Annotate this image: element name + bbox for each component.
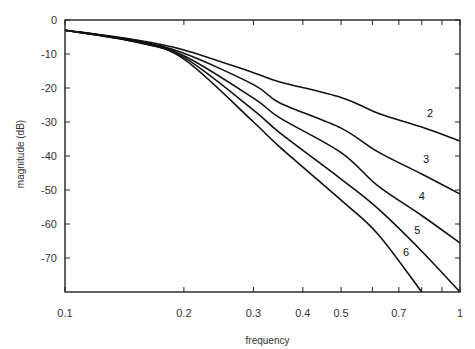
curve-label: 5 <box>414 224 420 236</box>
y-tick-label: -30 <box>41 116 57 128</box>
y-tick-label: -10 <box>41 48 57 60</box>
x-tick-label: 1 <box>457 307 463 319</box>
y-tick-label: -50 <box>41 184 57 196</box>
curve-label: 3 <box>423 153 429 165</box>
x-tick-label: 0.4 <box>295 307 310 319</box>
x-tick-label: 0.1 <box>57 307 72 319</box>
curve-order-2 <box>65 30 460 141</box>
y-tick-label: 0 <box>51 14 57 26</box>
curve-order-3 <box>65 30 460 194</box>
chart: 0.10.20.30.40.50.710-10-20-30-40-50-60-7… <box>0 0 475 349</box>
curve-order-4 <box>65 30 460 243</box>
plot-frame <box>65 20 460 292</box>
x-tick-label: 0.3 <box>246 307 261 319</box>
curve-label: 6 <box>403 246 409 258</box>
y-axis-label: magnitude (dB) <box>15 120 26 188</box>
axis-ticks <box>65 20 460 292</box>
curve-label: 2 <box>427 107 433 119</box>
y-tick-label: -40 <box>41 150 57 162</box>
curves <box>65 30 460 292</box>
x-tick-label: 0.2 <box>176 307 191 319</box>
tick-labels: 0.10.20.30.40.50.710-10-20-30-40-50-60-7… <box>41 14 463 319</box>
x-tick-label: 0.7 <box>391 307 406 319</box>
y-tick-label: -20 <box>41 82 57 94</box>
y-tick-label: -60 <box>41 218 57 230</box>
x-tick-label: 0.5 <box>333 307 348 319</box>
x-axis-label: frequency <box>246 335 290 346</box>
curve-order-5 <box>65 30 460 292</box>
y-tick-label: -70 <box>41 252 57 264</box>
curve-label: 4 <box>419 190 425 202</box>
